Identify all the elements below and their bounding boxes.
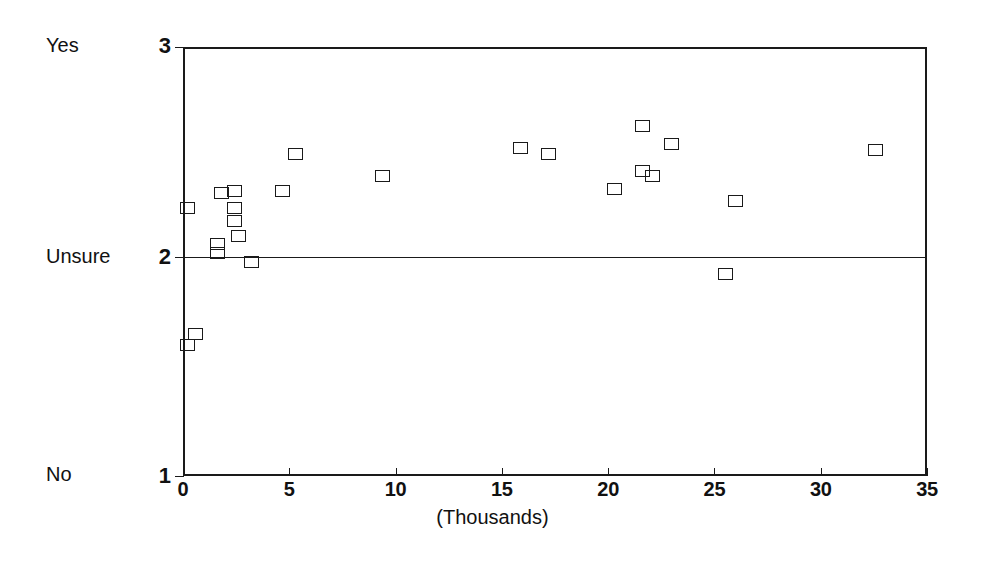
y-category-label-unsure: Unsure (46, 245, 110, 268)
y-tick-mark-2 (175, 257, 184, 258)
y-tick-mark-3 (175, 47, 184, 48)
scatter-chart-figure: Yes Unsure No 3 2 1 05101520253035 (Thou… (0, 0, 985, 561)
x-tick-mark-0 (183, 468, 184, 476)
x-tick-label-5: 5 (259, 478, 319, 501)
unsure-reference-line (183, 257, 927, 258)
x-tick-label-30: 30 (791, 478, 851, 501)
x-tick-label-15: 15 (472, 478, 532, 501)
y-category-label-yes: Yes (46, 34, 79, 57)
x-tick-label-25: 25 (684, 478, 744, 501)
x-axis-title: (Thousands) (0, 506, 985, 529)
x-tick-mark-15 (502, 468, 503, 476)
x-tick-label-0: 0 (153, 478, 213, 501)
x-tick-mark-10 (396, 468, 397, 476)
y-tick-label-2: 2 (131, 244, 171, 270)
x-tick-mark-5 (289, 468, 290, 476)
plot-frame (183, 47, 927, 476)
x-tick-label-10: 10 (366, 478, 426, 501)
x-tick-label-35: 35 (897, 478, 957, 501)
x-tick-label-20: 20 (578, 478, 638, 501)
y-tick-mark-1 (175, 476, 184, 477)
x-tick-mark-35 (927, 468, 928, 476)
y-category-label-no: No (46, 463, 72, 486)
y-tick-label-3: 3 (131, 33, 171, 59)
x-tick-mark-20 (608, 468, 609, 476)
x-tick-mark-25 (714, 468, 715, 476)
x-tick-mark-30 (821, 468, 822, 476)
